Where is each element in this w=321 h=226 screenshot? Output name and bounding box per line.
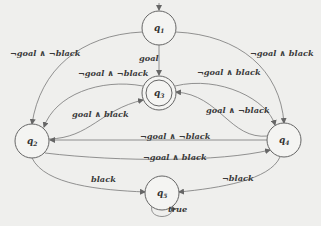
label-q2-q4: ¬goal ∧ black — [143, 152, 207, 162]
label-q4-q5: ¬black — [222, 173, 254, 183]
edge-q2-q3 — [49, 100, 143, 139]
state-q4: q4 — [267, 123, 301, 157]
label-q3-q2: ¬goal ∧ ¬black — [78, 68, 149, 78]
label-q3-q4: ¬goal ∧ black — [197, 67, 261, 77]
state-q2: q2 — [15, 124, 49, 158]
label-q4-q2: ¬goal ∧ ¬black — [140, 131, 211, 141]
label-q1-q4: ¬goal ∧ black — [250, 48, 314, 58]
label-q1-q3: goal — [139, 53, 159, 63]
edge-q3-q2 — [44, 84, 143, 127]
label-q2-q3: goal ∧ black — [72, 109, 129, 119]
state-q3: q3 — [142, 76, 176, 110]
label-q2-q5: black — [91, 174, 116, 184]
label-q1-q2: ¬goal ∧ ¬black — [10, 48, 81, 58]
state-diagram: q1 q3 q2 q4 q5 ¬goal ∧ ¬black ¬goal ∧ bl… — [0, 0, 321, 226]
label-q4-q3: goal ∧ ¬black — [206, 105, 270, 115]
edge-q2-q5 — [32, 158, 145, 192]
label-q5-loop: true — [168, 204, 187, 214]
state-q1: q1 — [142, 11, 176, 45]
